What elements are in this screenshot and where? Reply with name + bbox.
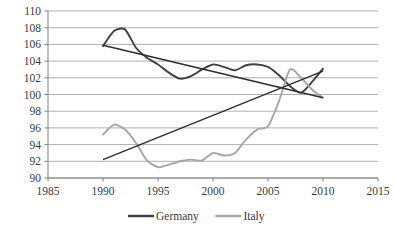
y-axis-label-90: 90 [30, 172, 42, 184]
legend-label-germany[interactable]: Germany [156, 210, 199, 223]
chart-legend: GermanyItaly [128, 210, 265, 223]
x-axis-tick-labels: 1985199019952000200520102015 [37, 185, 390, 197]
x-axis-label-1985: 1985 [37, 185, 60, 197]
y-axis-label-108: 108 [24, 22, 42, 34]
y-axis-label-100: 100 [24, 89, 42, 101]
y-axis-label-106: 106 [24, 38, 42, 50]
x-axis-label-1990: 1990 [92, 185, 115, 197]
y-axis-label-92: 92 [30, 155, 42, 167]
y-axis-label-94: 94 [30, 139, 42, 151]
y-axis-label-98: 98 [30, 105, 42, 117]
y-axis-tick-labels: 9092949698100102104106108110 [24, 5, 42, 184]
chart-plot-wrapper: 9092949698100102104106108110 19851990199… [0, 0, 394, 236]
x-axis-label-2000: 2000 [202, 185, 225, 197]
chart-container: 9092949698100102104106108110 19851990199… [0, 0, 394, 236]
trendline-germany [103, 45, 323, 98]
x-axis-label-1995: 1995 [147, 185, 170, 197]
x-axis-label-2010: 2010 [312, 185, 335, 197]
x-axis-label-2015: 2015 [367, 185, 390, 197]
y-axis-label-110: 110 [24, 5, 41, 17]
legend-label-italy[interactable]: Italy [243, 210, 264, 223]
y-axis-label-104: 104 [24, 55, 42, 67]
y-axis-label-102: 102 [24, 72, 42, 84]
chart-canvas: 9092949698100102104106108110 19851990199… [0, 0, 394, 236]
x-axis-label-2005: 2005 [257, 185, 280, 197]
y-axis-label-96: 96 [30, 122, 42, 134]
trendline-italy [103, 71, 323, 160]
axes-group [45, 11, 379, 182]
